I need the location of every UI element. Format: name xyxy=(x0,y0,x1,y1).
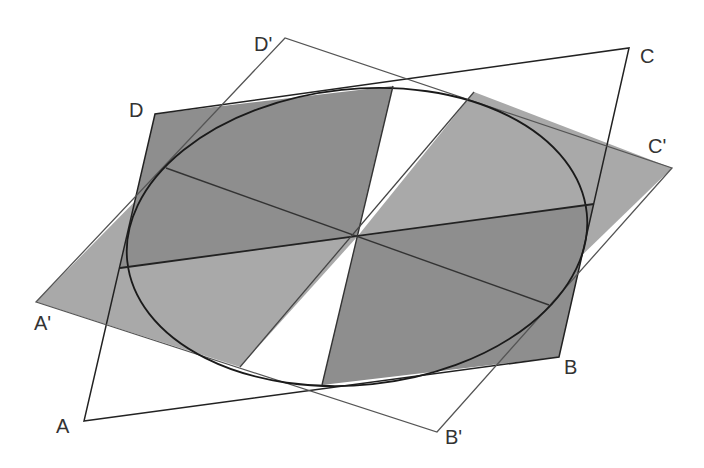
label-C: C xyxy=(640,45,654,67)
geometry-diagram: A B C D A' B' C' D' xyxy=(0,0,704,468)
label-D-prime: D' xyxy=(254,33,272,55)
label-C-prime: C' xyxy=(648,135,666,157)
label-B: B xyxy=(564,356,577,378)
label-B-prime: B' xyxy=(445,426,462,448)
label-A: A xyxy=(56,415,70,437)
label-A-prime: A' xyxy=(34,312,51,334)
label-D: D xyxy=(129,99,143,121)
